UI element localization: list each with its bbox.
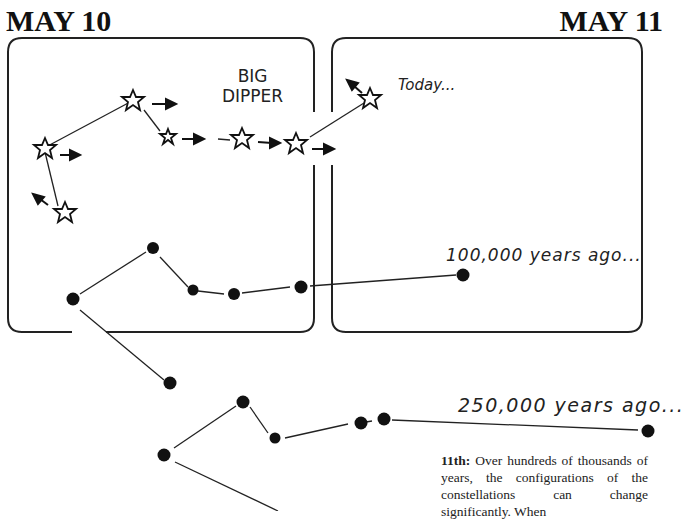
star-dot bbox=[188, 285, 199, 296]
constellation-label: BIG DIPPER bbox=[222, 66, 283, 106]
arrow-icon bbox=[258, 138, 280, 148]
star-dot bbox=[164, 377, 177, 390]
arrow-icon bbox=[152, 99, 176, 109]
star-dot bbox=[355, 417, 368, 430]
arrow-icon bbox=[182, 134, 204, 144]
epoch-label-today: Today... bbox=[398, 76, 455, 94]
caption-text: 11th: Over hundreds of thousands of year… bbox=[441, 452, 648, 520]
today-stars bbox=[34, 88, 381, 222]
star-dot bbox=[228, 288, 240, 300]
star-dot bbox=[67, 293, 80, 306]
epoch-label-250k: 250,000 years ago... bbox=[458, 394, 684, 416]
star-icon bbox=[359, 88, 381, 108]
caption-body: Over hundreds of thousands of years, the… bbox=[441, 453, 648, 519]
constellation-label-line1: BIG bbox=[222, 66, 283, 86]
star-icon bbox=[285, 133, 307, 153]
arrow-icon bbox=[347, 80, 362, 93]
star-dot bbox=[457, 269, 470, 282]
star-icon bbox=[122, 90, 144, 110]
star-dot bbox=[237, 396, 250, 409]
arrow-icon bbox=[60, 150, 80, 160]
caption-lead: 11th: bbox=[441, 453, 470, 468]
lines-100k bbox=[80, 252, 456, 380]
arrow-icon bbox=[312, 144, 334, 154]
star-dot bbox=[147, 242, 159, 254]
star-icon bbox=[34, 138, 56, 158]
star-dot bbox=[378, 413, 391, 426]
epoch-label-100k: 100,000 years ago... bbox=[446, 245, 642, 265]
motion-arrows bbox=[33, 80, 362, 205]
star-dot bbox=[642, 425, 655, 438]
star-dot bbox=[295, 281, 308, 294]
star-icon bbox=[231, 128, 253, 148]
arrow-icon bbox=[33, 194, 48, 205]
constellation-label-line2: DIPPER bbox=[222, 86, 283, 106]
star-dot bbox=[270, 433, 281, 444]
today-lines bbox=[44, 101, 364, 206]
star-icon bbox=[160, 129, 176, 144]
star-dot bbox=[158, 449, 171, 462]
panel-may-11 bbox=[332, 38, 642, 332]
